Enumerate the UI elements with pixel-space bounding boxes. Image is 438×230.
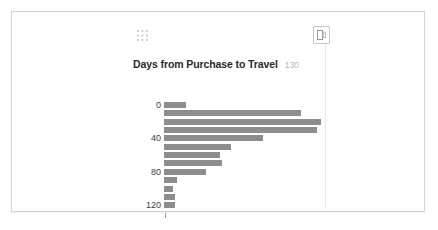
bar[interactable]	[164, 102, 186, 108]
grid-drag-handle-icon[interactable]	[136, 29, 149, 42]
export-button[interactable]	[313, 26, 330, 44]
bar[interactable]	[164, 152, 220, 158]
bar[interactable]	[164, 202, 175, 208]
screenshot-root: Days from Purchase to Travel 130 0408012…	[0, 0, 438, 230]
y-axis-tick-label: 80	[151, 167, 161, 176]
bar[interactable]	[164, 160, 222, 166]
y-axis-tick-label: 40	[151, 134, 161, 143]
chart-header: Days from Purchase to Travel 130	[133, 58, 299, 70]
y-axis-tick-label: 0	[156, 101, 161, 110]
widget-toolbar	[117, 26, 329, 48]
bar[interactable]	[164, 135, 263, 141]
y-axis-tick-label: 120	[146, 201, 161, 210]
bar[interactable]	[164, 169, 206, 175]
bar[interactable]	[164, 110, 301, 116]
bar[interactable]	[164, 194, 175, 200]
bar-series	[164, 100, 321, 222]
dashboard-card: Days from Purchase to Travel 130 0408012…	[11, 11, 425, 212]
bar[interactable]	[164, 186, 173, 192]
y-axis-labels: 04080120	[133, 100, 161, 222]
bar[interactable]	[164, 177, 177, 183]
bar[interactable]	[164, 127, 317, 133]
chart-title: Days from Purchase to Travel	[133, 58, 278, 70]
histogram-chart: 04080120	[133, 100, 321, 222]
x-axis-tick	[165, 213, 166, 218]
bar[interactable]	[164, 144, 231, 150]
export-icon	[317, 30, 326, 40]
widget-divider	[325, 42, 326, 207]
record-count-badge: 130	[285, 60, 299, 70]
bar[interactable]	[164, 119, 321, 125]
